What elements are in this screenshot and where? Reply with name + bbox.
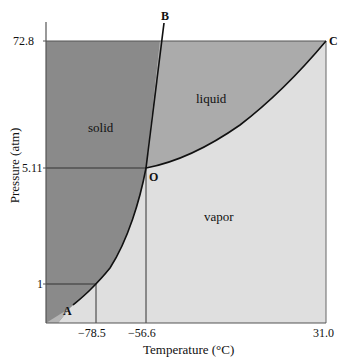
point-label-b: B (161, 10, 169, 22)
point-label-c: C (329, 35, 338, 47)
ytick-label-1: 1 (37, 278, 43, 290)
ytick-label-5-11: 5.11 (22, 162, 43, 174)
point-label-o: O (149, 171, 158, 183)
x-axis-title: Temperature (°C) (143, 343, 234, 356)
y-axis-title: Pressure (atm) (8, 116, 21, 216)
region-label-vapor: vapor (204, 210, 234, 223)
phase-diagram-plot (0, 0, 347, 361)
ytick-label-72-8: 72.8 (13, 35, 34, 47)
point-label-a: A (63, 305, 72, 317)
xtick-label-31-0: 31.0 (313, 327, 334, 339)
xtick-label-minus-56-6: −56.6 (128, 327, 156, 339)
region-label-solid: solid (88, 121, 113, 134)
phase-diagram: 72.8 5.11 1 −78.5 −56.6 31.0 Temperature… (0, 0, 347, 361)
xtick-label-minus-78-5: −78.5 (78, 327, 106, 339)
region-label-liquid: liquid (196, 92, 226, 105)
